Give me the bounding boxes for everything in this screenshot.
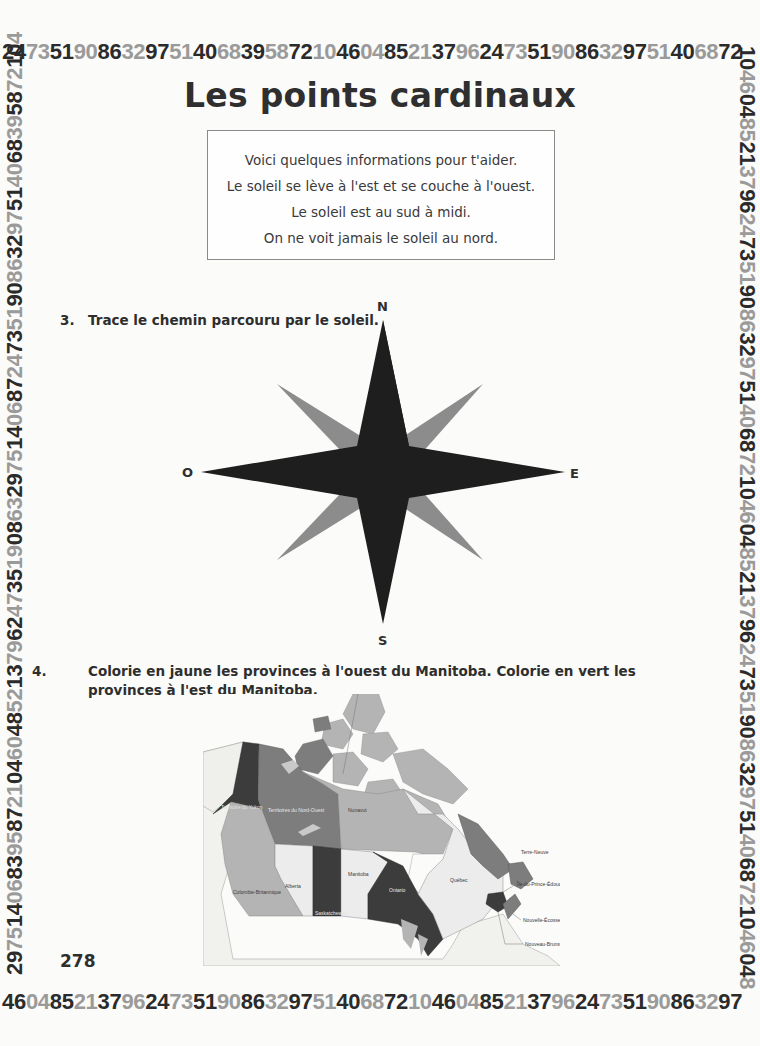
question-number: 4. [60,662,88,681]
info-line: Le soleil est au sud à midi. [208,199,554,225]
page-number: 278 [60,951,96,971]
map-label-quebec: Québec [450,877,468,883]
question-text: Colorie en jaune les provinces à l'ouest… [88,663,636,698]
info-line: Le soleil se lève à l'est et se couche à… [208,173,554,199]
page-title: Les points cardinaux [0,76,760,115]
border-digits-top: 2473519086329751406839587210460485213796… [2,41,742,63]
compass-star-icon [150,290,610,650]
question-number: 3. [60,311,88,330]
map-label-alberta: Alberta [285,883,301,889]
compass-rose: N S E O [150,290,610,650]
border-digits-left: 2975140683958721046048521379624735190863… [4,32,26,975]
compass-label-east: E [570,466,579,481]
canada-map: Territoire du Yukon Territoires du Nord-… [203,694,560,966]
map-label-ontario: Ontario [389,887,406,893]
border-digits-right: 1046048521379624735190863297514068721046… [736,46,758,989]
map-label-manitoba: Manitoba [348,871,369,877]
compass-cardinal-points [201,320,565,624]
map-label-nwt: Territoires du Nord-Ouest [268,807,325,813]
map-label-pei: Île-du-Prince-Édouard [516,881,560,887]
map-label-nunavut: Nunavut [348,807,367,813]
map-label-new_brunswick: Nouveau-Brunswick [525,941,560,947]
map-label-newfoundland: Terre-Neuve [521,849,549,855]
map-label-yukon: Territoire du Yukon [221,804,263,810]
border-digits-bottom: 4604852137962473519086329751406872104604… [2,991,742,1013]
compass-label-north: N [377,299,388,314]
canada-map-graphic: Territoire du Yukon Territoires du Nord-… [203,694,560,966]
info-box: Voici quelques informations pour t'aider… [207,130,555,260]
map-label-nova_scotia: Nouvelle-Écosse [523,917,560,923]
map-label-saskatchewan: Saskatchewan [315,910,348,916]
compass-label-west: O [182,465,193,480]
map-label-bc: Colombie-Britannique [233,889,281,895]
info-line: Voici quelques informations pour t'aider… [208,147,554,173]
compass-label-south: S [378,633,387,648]
info-line: On ne voit jamais le soleil au nord. [208,225,554,251]
